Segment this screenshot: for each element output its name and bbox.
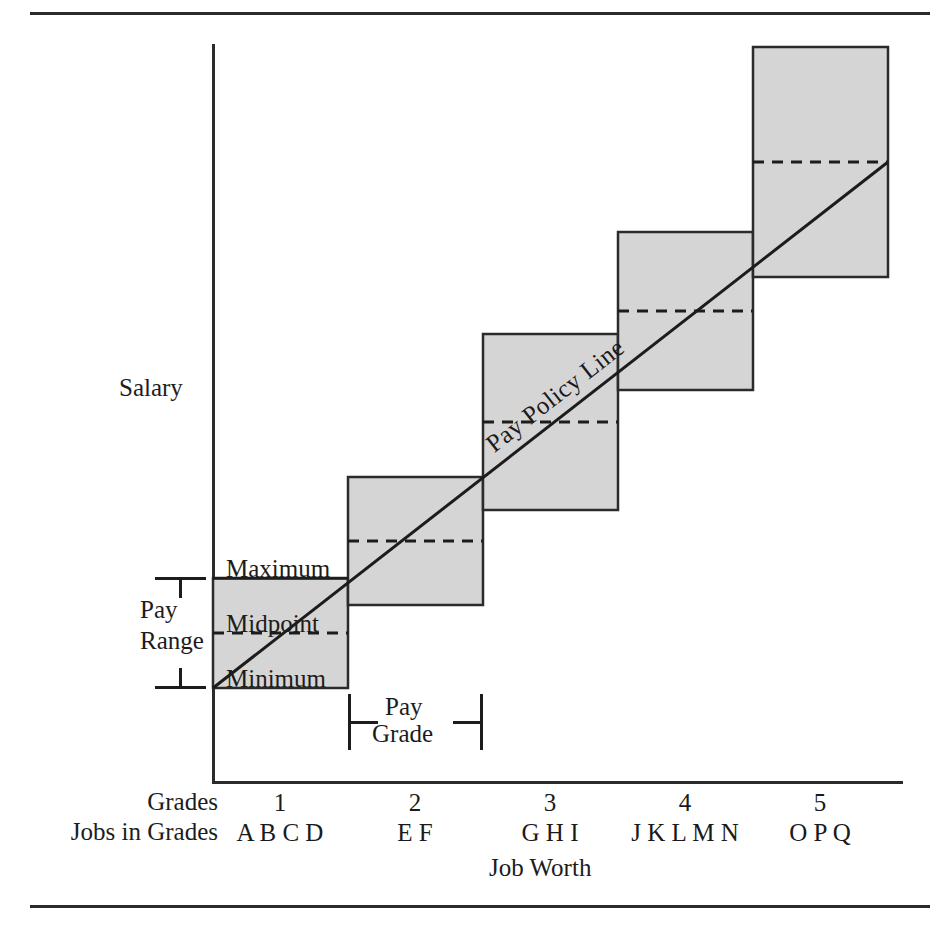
grade-number-4: 4 <box>615 789 755 817</box>
y-axis-title: Salary <box>119 375 183 400</box>
grade-number-2: 2 <box>345 789 485 817</box>
x-axis-title: Job Worth <box>489 855 591 880</box>
row-header-grades: Grades <box>38 789 218 814</box>
jobs-in-grade-2: E F <box>345 819 485 847</box>
annotation-maximum: Maximum <box>226 556 330 581</box>
grade-number-1: 1 <box>210 789 350 817</box>
jobs-in-grade-3: G H I <box>480 819 620 847</box>
grade-number-3: 3 <box>480 789 620 817</box>
annotation-midpoint: Midpoint <box>226 611 319 636</box>
jobs-in-grade-4: J K L M N <box>615 819 755 847</box>
grade-number-5: 5 <box>750 789 890 817</box>
annotation-pay-range-line2: Range <box>140 628 204 653</box>
annotation-pay-range-line1: Pay <box>140 597 178 622</box>
annotation-minimum: Minimum <box>226 666 326 691</box>
annotation-pay-grade-line1: Pay <box>385 694 423 719</box>
figure-page: Salary Maximum Midpoint Minimum Pay Rang… <box>0 0 936 937</box>
annotation-pay-grade-line2: Grade <box>372 721 433 746</box>
row-header-jobs-in-grades: Jobs in Grades <box>8 819 218 844</box>
jobs-in-grade-1: A B C D <box>210 819 350 847</box>
jobs-in-grade-5: O P Q <box>750 819 890 847</box>
